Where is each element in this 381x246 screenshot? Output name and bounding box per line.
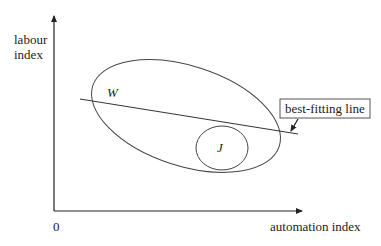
- y-axis-label-line2: index: [14, 47, 43, 62]
- y-axis-label-line1: labour: [14, 32, 48, 47]
- callout-arrow: [291, 119, 298, 131]
- x-axis-label: automation index: [270, 219, 361, 234]
- diagram-canvas: labour index 0 automation index W J best…: [0, 0, 381, 246]
- callout-label: best-fitting line: [285, 101, 365, 116]
- region-j-label: J: [217, 140, 224, 155]
- region-w-label: W: [107, 85, 119, 100]
- best-fitting-line: [80, 99, 298, 134]
- origin-label: 0: [53, 219, 60, 234]
